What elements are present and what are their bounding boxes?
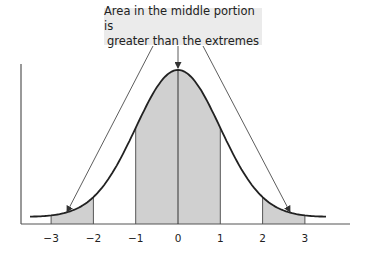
- x-tick-label: 3: [302, 232, 309, 244]
- annotation-line-1: Area in the middle portion is: [104, 4, 262, 34]
- x-tick-label: −3: [43, 232, 58, 244]
- x-tick-labels: −3−2−10123: [43, 232, 308, 244]
- x-tick-label: −1: [128, 232, 143, 244]
- x-tick-label: 2: [259, 232, 266, 244]
- x-tick-label: 1: [217, 232, 224, 244]
- annotation-line-2: greater than the extremes: [107, 34, 259, 49]
- annotation-label: Area in the middle portion is greater th…: [104, 8, 262, 45]
- x-tick-label: 0: [175, 232, 182, 244]
- x-tick-label: −2: [86, 232, 101, 244]
